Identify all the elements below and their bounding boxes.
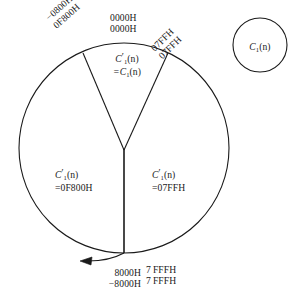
label-bottom-left-line1: 8000H bbox=[97, 268, 141, 279]
label-top-zero-line1: 0000H bbox=[110, 13, 137, 24]
label-bottom-right-line1: 7 FFFH bbox=[146, 265, 176, 276]
label-right-sector: C′1(n) =07FFH bbox=[152, 168, 185, 194]
direction-arrow-head bbox=[80, 257, 92, 265]
left-sector-arg: (n) bbox=[67, 169, 79, 180]
label-bottom-left-line2: −8000H bbox=[97, 279, 141, 290]
label-top-zero-line2: 0000H bbox=[110, 24, 137, 35]
label-small-circle: C1(n) bbox=[243, 42, 277, 55]
left-sector-value: =0F800H bbox=[55, 183, 93, 194]
label-bottom-left: 8000H −8000H bbox=[97, 268, 141, 289]
figure-canvas: 0000H 0000H −0800H 0F800H 07FFH 07FFH C′… bbox=[0, 0, 302, 305]
right-sector-arg: (n) bbox=[164, 169, 176, 180]
small-circle-arg: (n) bbox=[259, 41, 271, 52]
label-wedge-sector: C′1(n) =C1(n) bbox=[103, 52, 151, 80]
label-bottom-right: 7 FFFH 7 FFFH bbox=[146, 265, 176, 286]
wedge-eq-c: =C bbox=[113, 66, 126, 77]
right-sector-value: =07FFH bbox=[152, 183, 185, 194]
label-top-zero: 0000H 0000H bbox=[110, 13, 137, 34]
direction-arrow-curve bbox=[88, 253, 124, 261]
wedge-eq-arg: (n) bbox=[129, 66, 141, 77]
label-bottom-right-line2: 7 FFFH bbox=[146, 276, 176, 287]
label-left-sector: C′1(n) =0F800H bbox=[55, 168, 93, 194]
wedge-arg: (n) bbox=[127, 53, 139, 64]
